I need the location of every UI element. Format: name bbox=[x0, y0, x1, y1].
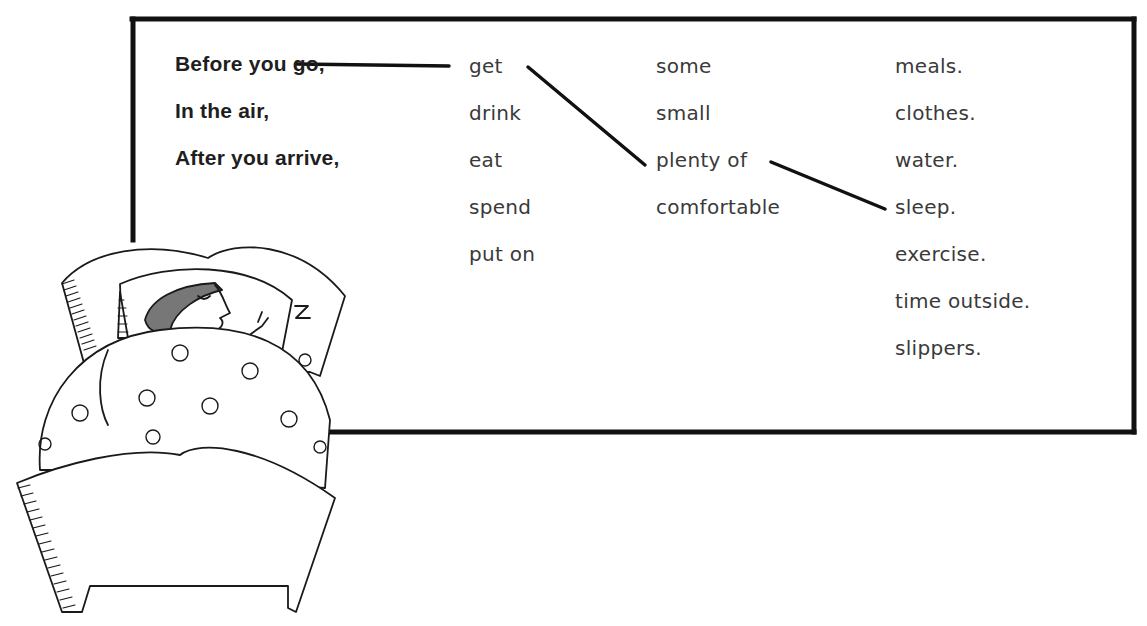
stem-in-the-air[interactable]: In the air, bbox=[175, 99, 269, 123]
line-get-to-plenty-of bbox=[528, 67, 645, 165]
noun-exercise[interactable]: exercise. bbox=[895, 242, 987, 266]
verb-get[interactable]: get bbox=[469, 54, 503, 78]
noun-slippers[interactable]: slippers. bbox=[895, 336, 982, 360]
verb-spend[interactable]: spend bbox=[469, 195, 531, 219]
stem-after-you-arrive[interactable]: After you arrive, bbox=[175, 146, 339, 170]
quantifier-plenty-of[interactable]: plenty of bbox=[656, 148, 747, 172]
stem-before-you-go[interactable]: Before you go, bbox=[175, 52, 325, 76]
exercise-frame bbox=[0, 0, 1147, 626]
quantifier-small[interactable]: small bbox=[656, 101, 711, 125]
verb-eat[interactable]: eat bbox=[469, 148, 502, 172]
quantifier-some[interactable]: some bbox=[656, 54, 712, 78]
verb-put-on[interactable]: put on bbox=[469, 242, 535, 266]
noun-time-outside[interactable]: time outside. bbox=[895, 289, 1031, 313]
noun-water[interactable]: water. bbox=[895, 148, 958, 172]
noun-meals[interactable]: meals. bbox=[895, 54, 963, 78]
verb-drink[interactable]: drink bbox=[469, 101, 521, 125]
noun-clothes[interactable]: clothes. bbox=[895, 101, 976, 125]
connection-lines bbox=[296, 64, 885, 209]
sleeping-woman-illustration bbox=[17, 247, 345, 612]
noun-sleep[interactable]: sleep. bbox=[895, 195, 956, 219]
line-plenty-of-to-sleep bbox=[771, 162, 885, 209]
quantifier-comfortable[interactable]: comfortable bbox=[656, 195, 780, 219]
